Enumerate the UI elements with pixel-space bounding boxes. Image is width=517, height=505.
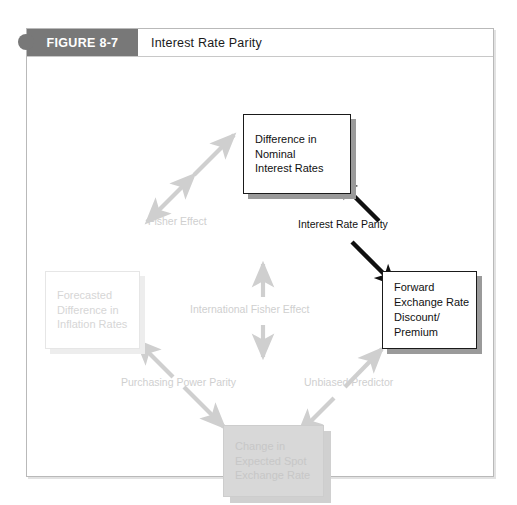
- edge-label-interest-rate-parity: Interest Rate Parity: [298, 218, 388, 230]
- edge-label-fisher-effect: Fisher Effect: [148, 215, 207, 227]
- edge-label-purchasing-power-parity: Purchasing Power Parity: [121, 376, 236, 388]
- figure-header: FIGURE 8-7 Interest Rate Parity: [27, 29, 493, 57]
- figure-title-label: Interest Rate Parity: [151, 36, 262, 50]
- arrow-ppp-down: [184, 387, 224, 427]
- node-change-expected-spot-exchange-rate[interactable]: Change in Expected Spot Exchange Rate: [223, 425, 324, 497]
- node-difference-nominal-interest-rates[interactable]: Difference in Nominal Interest Rates: [243, 114, 351, 194]
- node-forward-exchange-rate-discount-premium[interactable]: Forward Exchange Rate Discount/ Premium: [382, 271, 477, 349]
- diagram-canvas: Difference in Nominal Interest Rates For…: [27, 57, 493, 476]
- edge-label-international-fisher-effect: International Fisher Effect: [190, 303, 309, 315]
- figure-frame: FIGURE 8-7 Interest Rate Parity: [26, 28, 494, 477]
- arrow-fisher-up: [194, 135, 234, 175]
- tab-notch-icon: [18, 34, 34, 50]
- edge-label-unbiased-predictor: Unbiased Predictor: [304, 376, 393, 388]
- figure-number-tab: FIGURE 8-7: [27, 29, 138, 56]
- figure-title-area: Interest Rate Parity: [138, 29, 493, 56]
- figure-number-label: FIGURE 8-7: [47, 36, 119, 50]
- node-forecasted-difference-inflation-rates[interactable]: Forecasted Difference in Inflation Rates: [45, 271, 140, 349]
